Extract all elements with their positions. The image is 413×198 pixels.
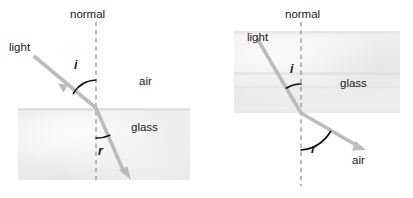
light-label: light [247,32,268,44]
light-label: light [9,42,30,54]
angle-of-incidence-label: i [290,63,293,76]
angle-of-refraction-label: r [98,145,103,158]
lower-medium-label: glass [131,122,158,134]
glass-to-air-canvas [206,0,413,198]
glass-slab [18,108,190,180]
diagram-air-to-glass: light normal i r air glass [0,0,207,198]
normal-label: normal [70,9,105,21]
normal-label: normal [285,9,320,21]
refraction-figure: light normal i r air glass [0,0,413,198]
angle-of-incidence-label: i [74,59,77,72]
upper-medium-label: glass [340,78,367,90]
diagram-glass-to-air: light normal i r glass air [206,0,413,198]
lower-medium-label: air [352,155,365,167]
upper-medium-label: air [139,76,152,88]
angle-of-refraction-label: r [311,143,316,156]
air-to-glass-canvas [0,0,207,198]
